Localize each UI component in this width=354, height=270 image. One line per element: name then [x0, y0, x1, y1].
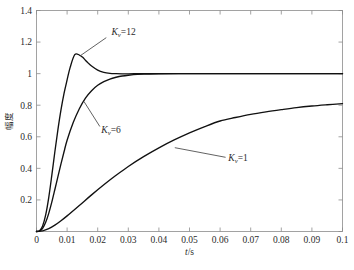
ann-kv12-value: =12 [121, 27, 136, 37]
figure-background [0, 0, 354, 270]
x-tick-label-1: 0.01 [59, 235, 76, 245]
x-axis-title: t/s [185, 247, 194, 257]
x-tick-label-9: 0.09 [304, 235, 321, 245]
y-tick-label-1: 0.2 [20, 195, 32, 205]
y-tick-label-6: 1.2 [20, 37, 32, 47]
x-tick-label-4: 0.04 [151, 235, 168, 245]
x-tick-label-10: 0.1 [337, 235, 349, 245]
y-tick-label-4: 0.8 [20, 101, 32, 111]
ann-kv1-value: =1 [238, 153, 248, 163]
ann-kv6-label: Kv=6 [100, 125, 121, 136]
ann-kv1-label: Kv=1 [227, 153, 248, 164]
x-tick-label-2: 0.02 [89, 235, 106, 245]
x-tick-label-6: 0.06 [212, 235, 229, 245]
y-axis-title: 幅度 [4, 112, 14, 130]
x-tick-label-0: 0 [34, 235, 39, 245]
step-response-plot: 00.010.020.030.040.050.060.070.080.090.1… [0, 0, 354, 270]
y-tick-label-2: 0.4 [20, 164, 32, 174]
ann-kv12-label: Kv=12 [110, 27, 135, 38]
x-axis-title-unit: /s [188, 247, 195, 257]
chart-figure: 00.010.020.030.040.050.060.070.080.090.1… [0, 0, 354, 270]
x-tick-label-7: 0.07 [242, 235, 259, 245]
y-tick-label-5: 1 [27, 69, 32, 79]
ann-kv6-value: =6 [111, 125, 121, 135]
x-tick-label-5: 0.05 [181, 235, 198, 245]
x-tick-label-8: 0.08 [273, 235, 290, 245]
y-tick-label-7: 1.4 [20, 6, 32, 16]
x-tick-label-3: 0.03 [120, 235, 137, 245]
y-tick-label-3: 0.6 [20, 132, 32, 142]
